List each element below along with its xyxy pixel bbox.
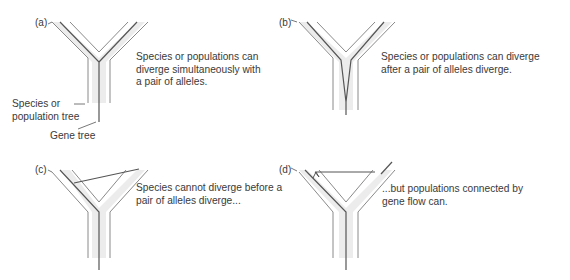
panel-label-c: (c) <box>35 164 47 175</box>
species-tree-diagram-d <box>285 140 570 280</box>
caption-c: Species cannot diverge before a pair of … <box>136 182 282 207</box>
panel-label-a: (a) <box>35 17 47 28</box>
panel-d: (d) ...but populations connected by gene… <box>285 140 570 280</box>
species-tree-diagram-c <box>0 140 285 280</box>
panel-c: (c) Species cannot diverge before a pair… <box>0 140 285 280</box>
panel-a: (a) Species or populations can diverge s… <box>0 0 285 140</box>
panel-label-d: (d) <box>279 164 291 175</box>
panel-b: (b) Species or populations can diverge a… <box>285 0 570 140</box>
caption-a: Species or populations can diverge simul… <box>136 51 261 89</box>
panel-label-b: (b) <box>279 17 291 28</box>
species-tree-label: Species or population tree <box>12 98 79 123</box>
caption-d: ...but populations connected by gene flo… <box>382 183 523 208</box>
caption-b: Species or populations can diverge after… <box>381 51 540 76</box>
